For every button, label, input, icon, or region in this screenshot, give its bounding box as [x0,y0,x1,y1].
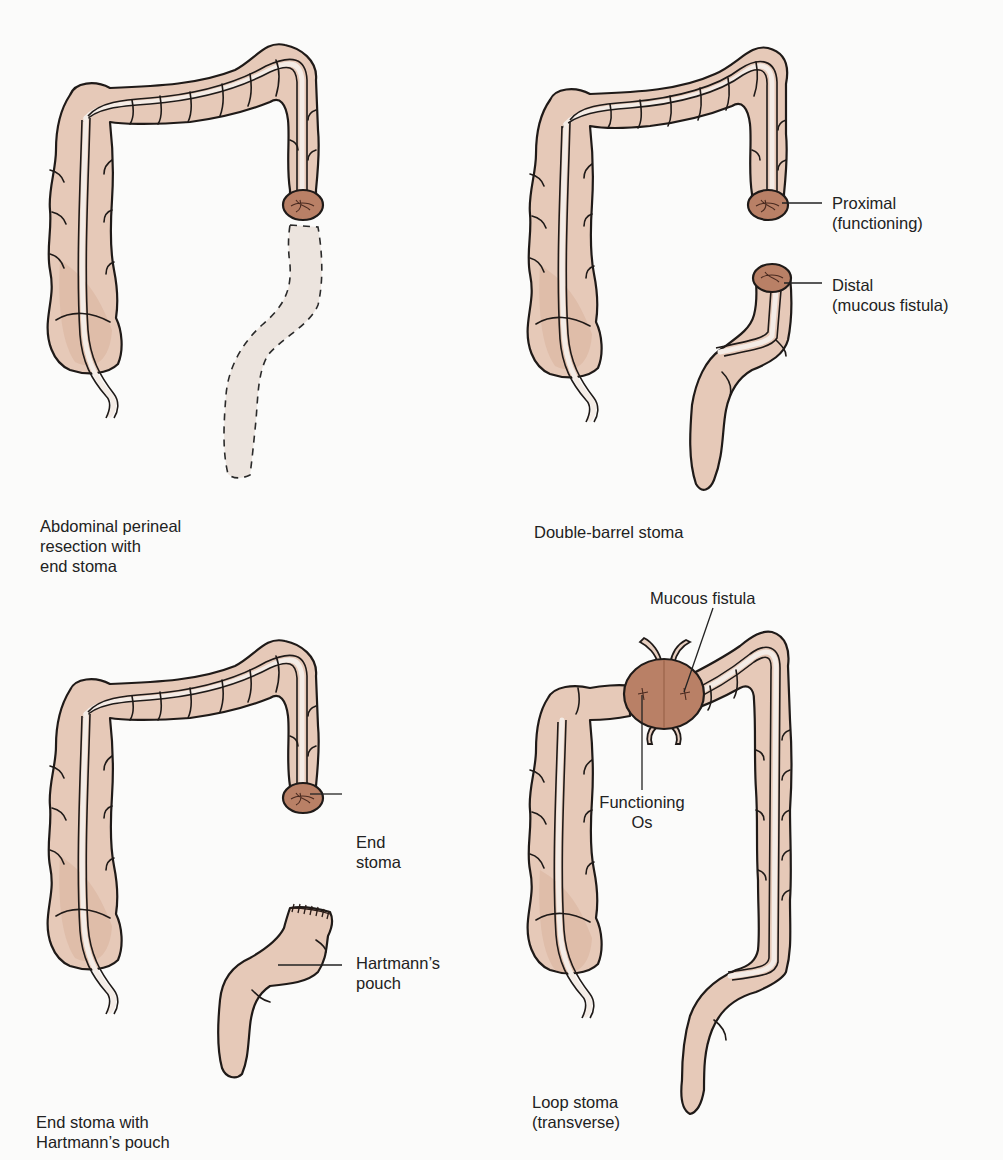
stoma-types-figure: Abdominal perineal resection with end st… [0,0,1003,1160]
caption-loop-stoma: Loop stoma (transverse) [532,1092,620,1132]
panel-double-barrel-stoma: Proximal (functioning) Distal (mucous fi… [500,0,1003,560]
panel-abdominal-perineal-resection: Abdominal perineal resection with end st… [0,0,500,580]
end-stoma [283,783,323,813]
label-distal-mucous-fistula: Distal (mucous fistula) [832,275,948,315]
end-stoma [283,190,323,220]
label-mucous-fistula: Mucous fistula [650,588,755,608]
colon-illustration-end-stoma-removed-rectum [0,0,500,580]
caption-double-barrel-stoma: Double-barrel stoma [534,522,683,542]
panel-hartmann-pouch: End stoma Hartmann’s pouch End stoma wit… [0,580,500,1160]
label-functioning-os: Functioning Os [596,792,688,832]
colon-illustration-loop-stoma [500,580,1003,1160]
panel-loop-stoma: Mucous fistula Functioning Os Loop stoma… [500,580,1003,1160]
label-end-stoma: End stoma [356,832,401,872]
colon-illustration-hartmann [0,580,500,1160]
caption-abdominal-perineal-resection: Abdominal perineal resection with end st… [40,516,181,576]
proximal-stoma [748,190,788,220]
hartmann-pouch [218,907,332,1077]
caption-end-stoma-hartmann: End stoma with Hartmann’s pouch [36,1112,170,1152]
label-proximal-functioning: Proximal (functioning) [832,193,923,233]
label-hartmann-pouch: Hartmann’s pouch [356,953,440,993]
removed-rectum-segment [224,225,322,478]
